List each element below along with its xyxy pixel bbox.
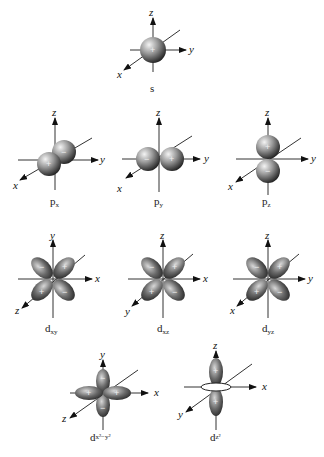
orbital-label-dxy: dxy <box>45 322 58 336</box>
orbital-label-pz: pz <box>262 195 271 209</box>
x-axis-label: x <box>116 68 122 80</box>
sign: + <box>86 388 91 398</box>
orbital-py: − + z y x py <box>116 106 209 209</box>
orbital-dxy: − + + − y x z dxy <box>14 229 100 336</box>
sign: − <box>277 287 282 297</box>
orbital-label-dz2: dz² <box>210 431 221 443</box>
y-axis-label: y <box>188 43 194 55</box>
z-axis-label: z <box>61 412 67 424</box>
z-axis-label: z <box>14 304 20 316</box>
orbital-dz2: + + z x y dz² <box>177 339 267 443</box>
orbital-label-dxz: dxz <box>157 322 169 336</box>
sign-minus: − <box>61 147 66 157</box>
x-axis-label: x <box>227 180 233 192</box>
sign-minus: − <box>144 154 149 164</box>
x-axis-label: x <box>261 380 267 392</box>
sign-plus: + <box>169 154 174 164</box>
sign: + <box>213 366 218 376</box>
orbital-label-s: s <box>150 82 154 94</box>
sign: + <box>62 262 67 272</box>
sign: + <box>114 388 119 398</box>
z-axis-label: z <box>51 106 57 118</box>
sign-plus: + <box>265 142 270 152</box>
z-axis-label: z <box>155 106 161 118</box>
orbital-dxz: − + + − z x y dxz <box>124 229 208 336</box>
orbital-s: + z y x s <box>116 6 194 94</box>
orbital-label-dyz: dyz <box>262 322 274 336</box>
orbital-label-dx2-y2: dx²−y² <box>90 431 111 443</box>
orbital-px: + − z y x px <box>12 106 105 209</box>
sign: − <box>62 287 67 297</box>
y-axis-label: y <box>307 272 313 284</box>
x-axis-label: x <box>94 272 100 284</box>
sign: − <box>149 262 154 272</box>
sign: − <box>100 403 105 413</box>
sign: + <box>149 287 154 297</box>
y-axis-label: y <box>203 152 209 164</box>
z-axis-label: z <box>212 339 218 351</box>
sign-plus: + <box>150 45 155 55</box>
sign: + <box>39 287 44 297</box>
sign: − <box>254 262 259 272</box>
sign: + <box>213 397 218 407</box>
sign-minus: − <box>265 166 270 176</box>
orbital-label-px: px <box>50 195 60 209</box>
sign: + <box>277 262 282 272</box>
y-axis-label: y <box>99 153 105 165</box>
sign: + <box>172 262 177 272</box>
sign: − <box>172 287 177 297</box>
x-axis-label: x <box>153 386 159 398</box>
sign: − <box>100 373 105 383</box>
x-axis-label: x <box>202 272 208 284</box>
x-axis-label: x <box>12 179 18 191</box>
z-axis-label: z <box>264 106 270 118</box>
z-axis-label: z <box>264 229 270 241</box>
y-axis-label: y <box>124 305 130 317</box>
orbital-label-py: py <box>154 195 164 209</box>
sign-plus: + <box>46 159 51 169</box>
z-axis-label: z <box>148 6 154 18</box>
orbital-pz: + − z y x pz <box>227 106 316 209</box>
x-axis-label: x <box>116 182 122 194</box>
z-axis-label: z <box>159 229 165 241</box>
orbital-dyz: − + + − z y x dyz <box>229 229 313 336</box>
orbital-diagram: + z y x s + − z y x px − + z y x py <box>0 0 324 457</box>
y-axis-label: y <box>177 408 183 420</box>
y-axis-label: y <box>310 152 316 164</box>
y-axis-label: y <box>49 229 55 241</box>
y-axis-label: y <box>99 348 105 360</box>
orbital-dx2-y2: − + + − y x z dx²−y² <box>61 348 159 443</box>
x-axis-label: x <box>229 304 235 316</box>
sign: + <box>254 287 259 297</box>
sign: − <box>39 262 44 272</box>
